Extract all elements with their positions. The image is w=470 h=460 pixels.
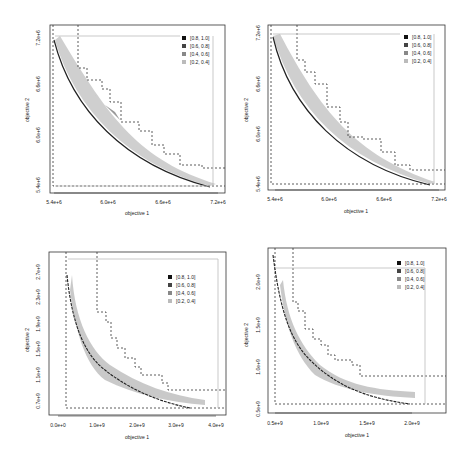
svg-text:0.5e+9: 0.5e+9 bbox=[255, 401, 261, 417]
svg-text:6.0e+6: 6.0e+6 bbox=[100, 199, 116, 205]
x-axis: 0.5e+9 1.0e+9 1.5e+9 2.0e+9 objective 1 bbox=[267, 413, 420, 438]
svg-text:[0.6, 0.8]: [0.6, 0.8] bbox=[405, 268, 425, 274]
svg-text:7.2e+6: 7.2e+6 bbox=[210, 199, 226, 205]
svg-text:0.5e+9: 0.5e+9 bbox=[267, 420, 283, 426]
svg-text:6.6e+6: 6.6e+6 bbox=[255, 76, 261, 92]
legend: [0.8, 1.0] [0.6, 0.8] [0.4, 0.6] [0.2, 0… bbox=[397, 260, 425, 290]
svg-text:[0.8, 1.0]: [0.8, 1.0] bbox=[405, 260, 425, 266]
svg-text:7.2e+6: 7.2e+6 bbox=[255, 25, 261, 41]
chart-panel-bottom-left: [0.8, 1.0] [0.6, 0.8] [0.4, 0.6] [0.2, 0… bbox=[0, 230, 235, 460]
svg-text:6.0e+6: 6.0e+6 bbox=[35, 127, 41, 143]
svg-text:6.6e+6: 6.6e+6 bbox=[155, 199, 171, 205]
legend: [0.8, 1.0] [0.6, 0.8] [0.4, 0.6] [0.2, 0… bbox=[182, 35, 210, 65]
svg-text:5.4e+6: 5.4e+6 bbox=[35, 177, 41, 193]
svg-text:[0.8, 1.0]: [0.8, 1.0] bbox=[176, 274, 196, 280]
x-axis: 5.4e+6 6.0e+6 6.6e+6 7.2e+6 objective 1 bbox=[267, 190, 447, 214]
svg-text:2.7e+9: 2.7e+9 bbox=[35, 264, 41, 280]
y-axis: 2.7e+9 2.3e+9 1.9e+9 1.5e+9 1.1e+9 0.7e+… bbox=[24, 264, 41, 409]
svg-text:0.0e+0: 0.0e+0 bbox=[50, 422, 66, 428]
svg-text:objective 2: objective 2 bbox=[24, 98, 30, 122]
x-axis: 5.4e+6 6.0e+6 6.6e+6 7.2e+6 objective 1 bbox=[46, 193, 226, 216]
svg-text:1.5e+9: 1.5e+9 bbox=[255, 317, 261, 333]
svg-text:[0.4, 0.6]: [0.4, 0.6] bbox=[190, 51, 210, 57]
svg-text:2.0e+9: 2.0e+9 bbox=[129, 422, 145, 428]
svg-text:[0.4, 0.6]: [0.4, 0.6] bbox=[405, 276, 425, 282]
y-axis: 2.0e+9 1.5e+9 1.0e+9 0.5e+9 objective 2 bbox=[243, 274, 261, 417]
svg-text:2.0e+9: 2.0e+9 bbox=[404, 420, 420, 426]
svg-text:objective 1: objective 1 bbox=[125, 210, 149, 216]
svg-text:objective 2: objective 2 bbox=[243, 323, 249, 347]
svg-text:0.7e+9: 0.7e+9 bbox=[35, 393, 41, 409]
svg-text:1.5e+9: 1.5e+9 bbox=[359, 420, 375, 426]
svg-text:[0.2, 0.4]: [0.2, 0.4] bbox=[190, 59, 210, 65]
svg-text:6.6e+6: 6.6e+6 bbox=[376, 196, 392, 202]
y-axis: 7.2e+6 6.6e+6 6.0e+6 5.4e+6 objective 2 bbox=[243, 25, 261, 192]
svg-text:1.1e+9: 1.1e+9 bbox=[35, 367, 41, 383]
svg-text:1.0e+9: 1.0e+9 bbox=[89, 422, 105, 428]
svg-text:1.9e+9: 1.9e+9 bbox=[35, 316, 41, 332]
svg-text:7.2e+6: 7.2e+6 bbox=[431, 196, 447, 202]
svg-text:objective 1: objective 1 bbox=[344, 208, 368, 214]
svg-text:7.2e+6: 7.2e+6 bbox=[35, 30, 41, 46]
y-axis: 7.2e+6 6.6e+6 6.0e+6 5.4e+6 objective 2 bbox=[24, 30, 41, 193]
svg-text:6.0e+6: 6.0e+6 bbox=[255, 126, 261, 142]
svg-text:[0.8, 1.0]: [0.8, 1.0] bbox=[412, 34, 432, 40]
svg-text:5.4e+6: 5.4e+6 bbox=[255, 176, 261, 192]
svg-text:[0.4, 0.6]: [0.4, 0.6] bbox=[176, 290, 196, 296]
svg-text:1.5e+9: 1.5e+9 bbox=[35, 341, 41, 357]
legend: [0.8, 1.0] [0.6, 0.8] [0.4, 0.6] [0.2, 0… bbox=[168, 274, 196, 304]
svg-text:5.4e+6: 5.4e+6 bbox=[267, 196, 283, 202]
svg-text:objective 2: objective 2 bbox=[24, 328, 30, 352]
chart-panel-top-left: [0.8, 1.0] [0.6, 0.8] [0.4, 0.6] [0.2, 0… bbox=[0, 0, 235, 230]
svg-text:objective 2: objective 2 bbox=[243, 98, 249, 122]
svg-text:4.0e+9: 4.0e+9 bbox=[208, 422, 224, 428]
svg-text:[0.2, 0.4]: [0.2, 0.4] bbox=[176, 298, 196, 304]
svg-text:5.4e+6: 5.4e+6 bbox=[46, 199, 62, 205]
svg-text:2.3e+9: 2.3e+9 bbox=[35, 289, 41, 305]
svg-text:[0.6, 0.8]: [0.6, 0.8] bbox=[176, 282, 196, 288]
svg-text:2.0e+9: 2.0e+9 bbox=[255, 274, 261, 290]
legend: [0.8, 1.0] [0.6, 0.8] [0.4, 0.6] [0.2, 0… bbox=[404, 34, 432, 64]
svg-text:[0.6, 0.8]: [0.6, 0.8] bbox=[190, 43, 210, 49]
svg-text:6.6e+6: 6.6e+6 bbox=[35, 76, 41, 92]
chart-panel-bottom-right: [0.8, 1.0] [0.6, 0.8] [0.4, 0.6] [0.2, 0… bbox=[235, 230, 470, 460]
svg-text:6.0e+6: 6.0e+6 bbox=[321, 196, 337, 202]
svg-text:objective 1: objective 1 bbox=[125, 434, 149, 440]
chart-panel-top-right: [0.8, 1.0] [0.6, 0.8] [0.4, 0.6] [0.2, 0… bbox=[235, 0, 470, 230]
svg-text:[0.8, 1.0]: [0.8, 1.0] bbox=[190, 35, 210, 41]
x-axis: 0.0e+0 1.0e+9 2.0e+9 3.0e+9 4.0e+9 objec… bbox=[50, 416, 224, 440]
svg-text:1.0e+9: 1.0e+9 bbox=[255, 359, 261, 375]
svg-text:[0.4, 0.6]: [0.4, 0.6] bbox=[412, 50, 432, 56]
svg-text:[0.6, 0.8]: [0.6, 0.8] bbox=[412, 42, 432, 48]
svg-text:[0.2, 0.4]: [0.2, 0.4] bbox=[405, 284, 425, 290]
svg-text:objective 1: objective 1 bbox=[345, 432, 369, 438]
svg-text:1.0e+9: 1.0e+9 bbox=[313, 420, 329, 426]
svg-text:[0.2, 0.4]: [0.2, 0.4] bbox=[412, 58, 432, 64]
svg-text:3.0e+9: 3.0e+9 bbox=[168, 422, 184, 428]
